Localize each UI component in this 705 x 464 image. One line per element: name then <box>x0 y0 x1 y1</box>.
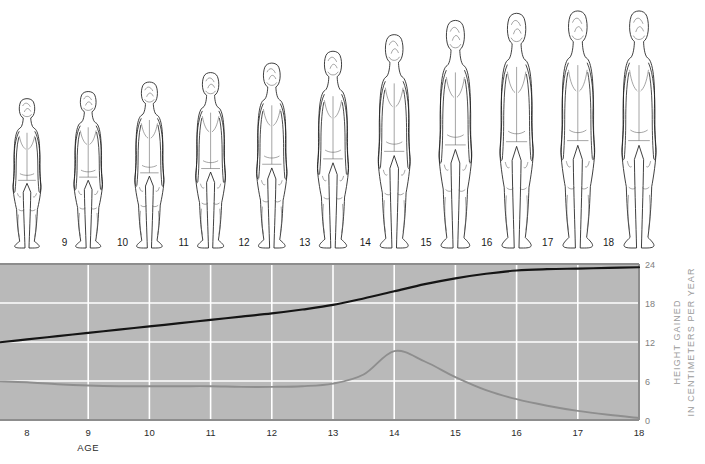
y-axis-title-line: IN CENTIMETERS PER YEAR <box>686 267 696 416</box>
figure-age-label-17: 17 <box>542 237 554 248</box>
growth-chart-panel: 89101112131415161718AGE06121824HEIGHT GA… <box>0 258 705 464</box>
growth-figures-panel: 9101112131415161718 <box>0 0 705 258</box>
figure-age-15 <box>439 20 472 248</box>
x-tick-label: 10 <box>144 427 155 438</box>
figure-age-label-10: 10 <box>117 237 129 248</box>
y-tick-label: 6 <box>645 377 650 387</box>
x-tick-label: 15 <box>450 427 461 438</box>
y-tick-label: 12 <box>645 338 655 348</box>
y-tick-label: 0 <box>645 416 650 426</box>
figure-age-label-14: 14 <box>360 237 372 248</box>
figure-age-13 <box>317 51 348 248</box>
figure-age-label-16: 16 <box>481 237 493 248</box>
figure-age-8 <box>13 99 41 248</box>
figure-age-9 <box>74 92 103 248</box>
y-axis-title-line: HEIGHT GAINED <box>672 299 682 384</box>
growth-figures-illustration: 9101112131415161718 <box>0 0 705 258</box>
x-axis-title: AGE <box>77 442 99 453</box>
y-axis-title: HEIGHT GAINEDIN CENTIMETERS PER YEAR <box>672 267 696 416</box>
figure-age-17 <box>561 11 595 248</box>
chart-y-axis: 06121824 <box>645 260 655 426</box>
figure-age-11 <box>196 73 226 248</box>
figure-age-label-13: 13 <box>299 237 311 248</box>
x-tick-label: 11 <box>206 427 216 438</box>
growth-velocity-chart: 89101112131415161718AGE06121824HEIGHT GA… <box>0 258 705 464</box>
figure-age-18 <box>622 11 656 248</box>
x-tick-label: 13 <box>328 427 339 438</box>
x-tick-label: 14 <box>389 427 400 438</box>
x-tick-label: 8 <box>24 427 29 438</box>
figure-age-label-18: 18 <box>603 237 615 248</box>
figure-age-label-12: 12 <box>239 237 251 248</box>
figure-age-label-11: 11 <box>179 237 190 248</box>
figure-age-16 <box>500 13 533 248</box>
figure-age-14 <box>378 35 410 248</box>
figure-age-10 <box>135 82 164 248</box>
y-tick-label: 18 <box>645 299 655 309</box>
x-tick-label: 16 <box>511 427 522 438</box>
y-tick-label: 24 <box>645 260 655 270</box>
x-tick-label: 9 <box>86 427 91 438</box>
figure-age-12 <box>257 63 287 248</box>
figure-age-label-9: 9 <box>62 237 68 248</box>
chart-x-axis: 89101112131415161718AGE <box>24 427 644 453</box>
x-tick-label: 18 <box>634 427 645 438</box>
x-tick-label: 17 <box>573 427 584 438</box>
figure-age-label-15: 15 <box>420 237 432 248</box>
x-tick-label: 12 <box>267 427 278 438</box>
